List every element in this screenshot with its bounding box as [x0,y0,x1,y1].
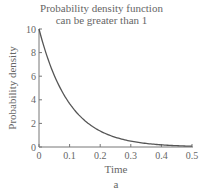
x-axis-label: Time [105,163,128,175]
y-ticks: 0246810 [26,24,42,153]
density-curve [39,29,192,146]
x-tick-label: 0.5 [186,150,199,161]
y-tick-label: 2 [31,118,36,129]
y-tick-label: 8 [31,47,36,58]
x-tick-label: 0.4 [155,150,168,161]
y-tick-label: 6 [31,71,36,82]
x-tick-label: 0.3 [125,150,138,161]
x-tick-label: 0 [37,150,42,161]
figure-caption: a [114,178,119,190]
y-tick-label: 10 [26,24,36,35]
x-tick-label: 0.1 [63,150,76,161]
y-tick-label: 4 [31,94,36,105]
chart-plot: 0246810 00.10.20.30.40.5 Time Probabilit… [0,0,203,196]
y-axis-label: Probability density [6,46,18,130]
x-tick-label: 0.2 [94,150,107,161]
y-tick-label: 0 [31,142,36,153]
